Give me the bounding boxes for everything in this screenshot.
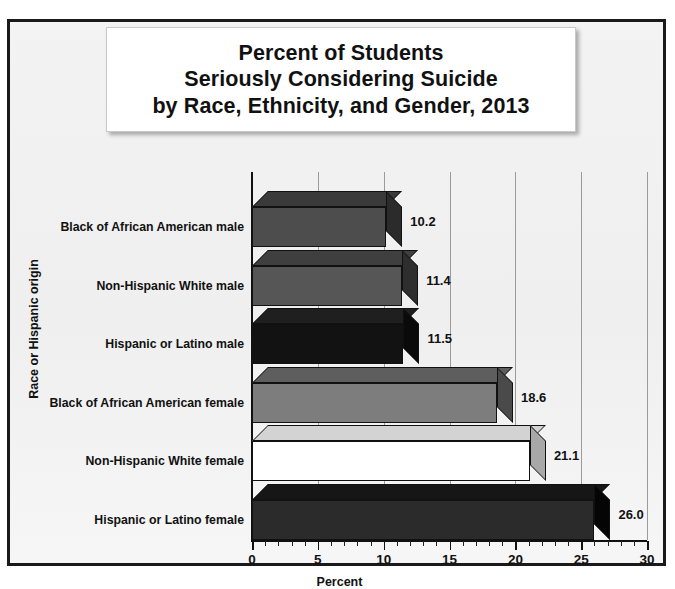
bar-value-label-4: 18.6 [521, 389, 546, 404]
x-tick-major-0 [252, 541, 254, 550]
x-tick-minor-21 [529, 541, 530, 546]
bar-value-label-5: 21.1 [554, 448, 579, 463]
plot-area: Race or Hispanic origin Percent 05101520… [10, 22, 669, 569]
category-label-2: Non-Hispanic White male [96, 279, 244, 293]
bar-side-face [530, 425, 546, 481]
bar-value-label-3: 11.5 [427, 331, 452, 346]
bar-5 [252, 425, 546, 481]
bar-top-face [252, 425, 546, 441]
x-tick-major-10 [384, 541, 386, 550]
x-tick-major-30 [647, 541, 649, 550]
category-label-3: Hispanic or Latino male [105, 337, 244, 351]
bar-front-face [252, 383, 497, 423]
x-tick-major-15 [450, 541, 452, 550]
bar-top-face [252, 484, 610, 500]
bar-4 [252, 367, 513, 423]
category-label-4: Black of African American female [49, 396, 244, 410]
x-tick-minor-14 [436, 541, 437, 546]
category-label-6: Hispanic or Latino female [94, 513, 244, 527]
x-tick-minor-1 [265, 541, 266, 546]
x-tick-minor-11 [397, 541, 398, 546]
bar-side-face [402, 250, 418, 306]
x-tick-minor-27 [608, 541, 609, 546]
x-tick-label-10: 10 [376, 552, 391, 567]
x-tick-label-25: 25 [574, 552, 589, 567]
bar-value-label-6: 26.0 [618, 507, 643, 522]
bar-side-face [403, 308, 419, 364]
bar-1 [252, 191, 402, 247]
bar-top-face [252, 367, 513, 383]
bar-value-label-1: 10.2 [410, 214, 435, 229]
x-tick-minor-24 [568, 541, 569, 546]
bar-front-face [252, 207, 386, 247]
bar-3 [252, 308, 419, 364]
x-tick-minor-28 [621, 541, 622, 546]
x-tick-minor-2 [278, 541, 279, 546]
x-tick-label-0: 0 [248, 552, 256, 567]
x-tick-minor-19 [502, 541, 503, 546]
bar-front-face [252, 324, 403, 364]
x-tick-minor-12 [410, 541, 411, 546]
bar-front-face [252, 266, 402, 306]
bar-top-face [252, 250, 418, 266]
x-tick-major-20 [515, 541, 517, 550]
x-tick-major-5 [318, 541, 320, 550]
x-tick-minor-18 [489, 541, 490, 546]
bar-top-face [252, 191, 402, 207]
x-tick-minor-9 [371, 541, 372, 546]
y-axis-title: Race or Hispanic origin [27, 239, 41, 419]
category-label-1: Black of African American male [60, 220, 244, 234]
chart-card: Percent of Students Seriously Considerin… [7, 19, 666, 566]
x-tick-minor-3 [292, 541, 293, 546]
bar-front-face [252, 441, 530, 481]
x-tick-minor-17 [476, 541, 477, 546]
x-tick-minor-16 [463, 541, 464, 546]
bar-side-face [497, 367, 513, 423]
x-tick-label-20: 20 [508, 552, 523, 567]
bar-side-face [386, 191, 402, 247]
x-tick-minor-4 [305, 541, 306, 546]
category-label-5: Non-Hispanic White female [85, 454, 244, 468]
x-tick-minor-7 [344, 541, 345, 546]
x-tick-label-5: 5 [314, 552, 322, 567]
bar-top-face [252, 308, 419, 324]
bar-side-face [594, 484, 610, 540]
x-axis-title: Percent [10, 575, 669, 589]
gridline-30 [647, 172, 648, 540]
bar-6 [252, 484, 610, 540]
bar-2 [252, 250, 418, 306]
x-tick-minor-22 [542, 541, 543, 546]
x-tick-minor-6 [331, 541, 332, 546]
x-tick-label-30: 30 [640, 552, 655, 567]
bar-value-label-2: 11.4 [426, 272, 451, 287]
x-tick-major-25 [581, 541, 583, 550]
x-tick-minor-8 [357, 541, 358, 546]
bar-front-face [252, 500, 594, 540]
x-tick-minor-26 [594, 541, 595, 546]
x-tick-minor-13 [423, 541, 424, 546]
x-tick-minor-23 [555, 541, 556, 546]
x-tick-minor-29 [634, 541, 635, 546]
x-tick-label-15: 15 [442, 552, 457, 567]
